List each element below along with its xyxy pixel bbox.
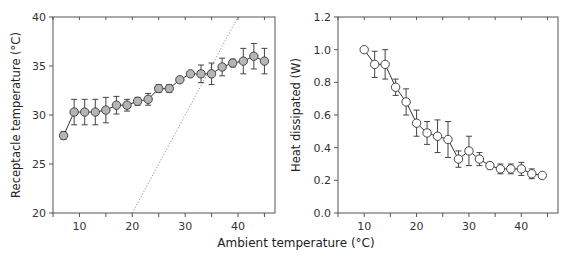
data-point xyxy=(197,70,205,78)
data-point xyxy=(70,108,78,116)
data-point xyxy=(186,70,194,78)
data-point xyxy=(423,129,431,137)
data-line xyxy=(364,50,542,176)
data-point xyxy=(496,165,504,173)
data-point xyxy=(528,170,536,178)
y-tick-label: 0.6 xyxy=(314,109,332,122)
data-point xyxy=(207,70,215,78)
y-tick-label: 25 xyxy=(32,158,46,171)
data-point xyxy=(239,57,247,65)
y-tick-label: 0.0 xyxy=(314,207,332,220)
data-point xyxy=(370,60,378,68)
y-tick-label: 30 xyxy=(32,109,46,122)
reference-line xyxy=(132,17,238,213)
x-tick-label: 10 xyxy=(357,220,371,233)
data-point xyxy=(391,83,399,91)
x-tick-label: 20 xyxy=(125,220,139,233)
data-point xyxy=(381,60,389,68)
data-point xyxy=(454,155,462,163)
data-point xyxy=(176,76,184,84)
data-point xyxy=(507,165,515,173)
data-point xyxy=(102,106,110,114)
data-point xyxy=(123,101,131,109)
data-point xyxy=(517,165,525,173)
data-point xyxy=(433,132,441,140)
data-point xyxy=(133,97,141,105)
data-point xyxy=(538,171,546,179)
data-point xyxy=(59,131,67,139)
data-point xyxy=(250,52,258,60)
data-point xyxy=(155,84,163,92)
x-tick-label: 40 xyxy=(231,220,245,233)
data-point xyxy=(91,108,99,116)
figure: 102030402025303540Receptacle temperature… xyxy=(0,0,573,260)
data-point xyxy=(360,45,368,53)
y-tick-label: 0.8 xyxy=(314,76,332,89)
data-point xyxy=(229,59,237,67)
data-point xyxy=(81,108,89,116)
y-axis-label: Heat dissipated (W) xyxy=(289,58,303,172)
data-point xyxy=(412,119,420,127)
x-tick-label: 30 xyxy=(462,220,476,233)
y-tick-label: 0.4 xyxy=(314,142,332,155)
data-point xyxy=(444,135,452,143)
heat-dissipated-chart: 102030400.00.20.40.60.81.01.2Heat dissip… xyxy=(289,11,558,233)
data-point xyxy=(260,57,268,65)
x-tick-label: 10 xyxy=(72,220,86,233)
data-point xyxy=(475,155,483,163)
x-tick-label: 40 xyxy=(514,220,528,233)
y-tick-label: 35 xyxy=(32,60,46,73)
data-point xyxy=(165,84,173,92)
data-point xyxy=(112,101,120,109)
y-tick-label: 1.2 xyxy=(314,11,332,24)
data-point xyxy=(465,147,473,155)
x-axis-label: Ambient temperature (°C) xyxy=(217,236,374,250)
data-point xyxy=(486,161,494,169)
data-line xyxy=(64,56,265,135)
y-tick-label: 20 xyxy=(32,207,46,220)
x-tick-label: 20 xyxy=(410,220,424,233)
data-point xyxy=(218,63,226,71)
data-point xyxy=(144,95,152,103)
receptacle-temperature-chart: 102030402025303540Receptacle temperature… xyxy=(9,11,275,233)
y-tick-label: 0.2 xyxy=(314,174,332,187)
data-point xyxy=(402,98,410,106)
y-axis-label: Receptacle temperature (°C) xyxy=(9,32,23,198)
plot-frame xyxy=(338,17,558,213)
y-tick-label: 40 xyxy=(32,11,46,24)
x-tick-label: 30 xyxy=(178,220,192,233)
y-tick-label: 1.0 xyxy=(314,44,332,57)
